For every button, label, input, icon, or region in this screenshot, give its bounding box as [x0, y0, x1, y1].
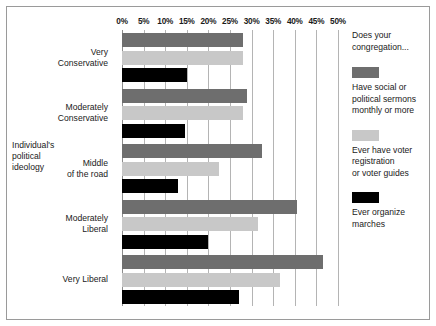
category-label: Very Conservative: [8, 47, 108, 69]
bar: [122, 162, 219, 176]
legend-entries: Have social or political sermons monthly…: [352, 67, 428, 230]
bar: [122, 106, 243, 120]
legend-title: Does your congregation...: [352, 30, 428, 53]
legend-swatch: [352, 130, 379, 141]
legend-label: Ever organize marches: [352, 207, 428, 230]
bar: [122, 68, 187, 82]
bar: [122, 89, 247, 103]
bar: [122, 255, 323, 269]
legend-label: Ever have voter registration or voter gu…: [352, 145, 428, 180]
bar: [122, 273, 280, 287]
bar: [122, 124, 185, 138]
chart-legend: Does your congregation... Have social or…: [352, 30, 428, 243]
bar: [122, 144, 262, 158]
y-axis-title: Individual's political ideology: [12, 140, 82, 173]
category-label: Moderately Liberal: [8, 213, 108, 235]
bar: [122, 179, 178, 193]
gridline-50pct: [338, 30, 339, 306]
bar: [122, 51, 243, 65]
legend-swatch: [352, 192, 379, 203]
legend-entry: Ever organize marches: [352, 192, 428, 230]
bar: [122, 200, 297, 214]
bar: [122, 33, 243, 47]
chart-figure: 0%5%10%15%20%25%30%35%40%45%50% Very Con…: [0, 0, 436, 326]
legend-entry: Ever have voter registration or voter gu…: [352, 130, 428, 180]
bar: [122, 290, 239, 304]
category-label: Very Liberal: [8, 274, 108, 285]
bar: [122, 235, 208, 249]
legend-label: Have social or political sermons monthly…: [352, 82, 428, 117]
bar: [122, 217, 258, 231]
legend-swatch: [352, 67, 379, 78]
category-label: Moderately Conservative: [8, 102, 108, 124]
legend-entry: Have social or political sermons monthly…: [352, 67, 428, 117]
